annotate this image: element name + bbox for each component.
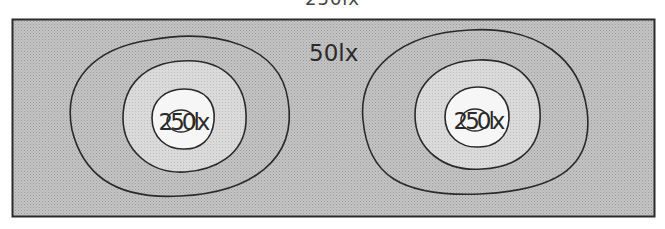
left-center-illuminance-label: 250lx [159, 109, 210, 135]
outer-illuminance-label: 50lx [309, 40, 358, 66]
illuminance-contour-diagram: 50lx 250lx 250lx [0, 0, 665, 229]
right-center-illuminance-label: 250lx [454, 108, 505, 134]
